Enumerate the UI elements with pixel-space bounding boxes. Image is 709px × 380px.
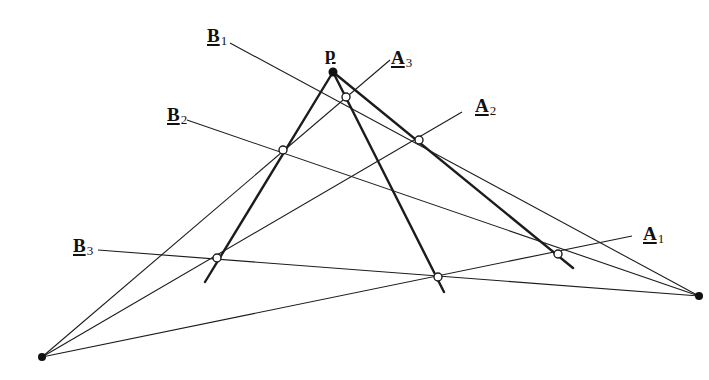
intersection-a2-b3 [213, 254, 221, 262]
thick-line-middle [333, 72, 444, 292]
thick-line-left [205, 72, 333, 282]
intersection-a1-b2 [554, 250, 562, 258]
line-a3 [42, 60, 390, 357]
line-a2 [42, 112, 462, 357]
label-b1-main: B [207, 25, 220, 46]
thick-line-right [333, 72, 573, 268]
label-a2: A2 [475, 96, 496, 115]
line-b3 [98, 250, 699, 296]
label-a1: A1 [643, 224, 664, 243]
label-b2-main: B [167, 104, 180, 125]
projective-diagram [0, 0, 709, 380]
label-b2-sub: 2 [181, 112, 188, 127]
label-a2-main: A [475, 95, 489, 116]
line-a1 [42, 236, 632, 357]
label-b1: B1 [207, 26, 227, 45]
label-a3-main: A [391, 47, 405, 68]
label-p-main: p [325, 43, 336, 64]
label-b3: B3 [73, 236, 93, 255]
label-a2-sub: 2 [490, 103, 497, 118]
intersection-a3-b2 [279, 146, 287, 154]
label-b3-main: B [73, 235, 86, 256]
label-a3-sub: 3 [406, 55, 413, 70]
intersection-a3-b1 [342, 93, 350, 101]
label-b3-sub: 3 [87, 243, 94, 258]
label-p: p [325, 44, 336, 63]
point-left [38, 353, 46, 361]
intersection-a1-b3 [434, 273, 442, 281]
label-b2: B2 [167, 105, 187, 124]
line-b2 [187, 120, 699, 296]
line-b1 [230, 43, 699, 296]
label-a1-main: A [643, 223, 657, 244]
point-p [329, 68, 338, 77]
label-b1-sub: 1 [221, 33, 228, 48]
label-a1-sub: 1 [658, 231, 665, 246]
point-right [695, 292, 703, 300]
intersection-a2-b1 [415, 136, 423, 144]
label-a3: A3 [391, 48, 412, 67]
